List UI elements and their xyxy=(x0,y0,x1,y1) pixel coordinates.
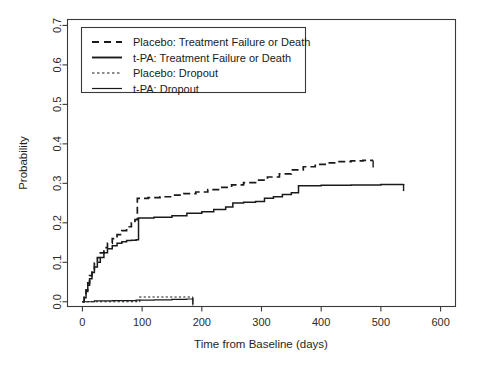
x-tick-label: 300 xyxy=(252,316,270,328)
x-tick-label: 100 xyxy=(133,316,151,328)
y-tick-label: 0.1 xyxy=(52,255,64,270)
legend: Placebo: Treatment Failure or Deatht-PA:… xyxy=(82,28,311,95)
x-tick-label: 600 xyxy=(431,316,449,328)
legend-label: t-PA: Treatment Failure or Death xyxy=(133,52,291,64)
plot-canvas: 0.00.10.20.30.40.50.60.7 010020030040050… xyxy=(0,0,481,371)
x-tick-label: 400 xyxy=(312,316,330,328)
x-tick-label: 500 xyxy=(372,316,390,328)
y-tick-label: 0.5 xyxy=(52,97,64,112)
y-axis-title: Probability xyxy=(17,136,29,190)
y-tick-label: 0.7 xyxy=(52,18,64,33)
x-axis-title: Time from Baseline (days) xyxy=(194,338,328,350)
y-tick-label: 0.4 xyxy=(52,136,64,151)
survival-curve-figure: 0.00.10.20.30.40.50.60.7 010020030040050… xyxy=(0,0,481,371)
y-tick-label: 0.2 xyxy=(52,215,64,230)
y-tick-label: 0.0 xyxy=(52,294,64,309)
y-tick-label: 0.6 xyxy=(52,57,64,72)
y-tick-label: 0.3 xyxy=(52,176,64,191)
legend-label: t-PA: Dropout xyxy=(133,83,199,95)
x-tick-label: 0 xyxy=(79,316,85,328)
x-tick-label: 200 xyxy=(193,316,211,328)
legend-label: Placebo: Dropout xyxy=(133,67,218,79)
legend-label: Placebo: Treatment Failure or Death xyxy=(133,36,310,48)
